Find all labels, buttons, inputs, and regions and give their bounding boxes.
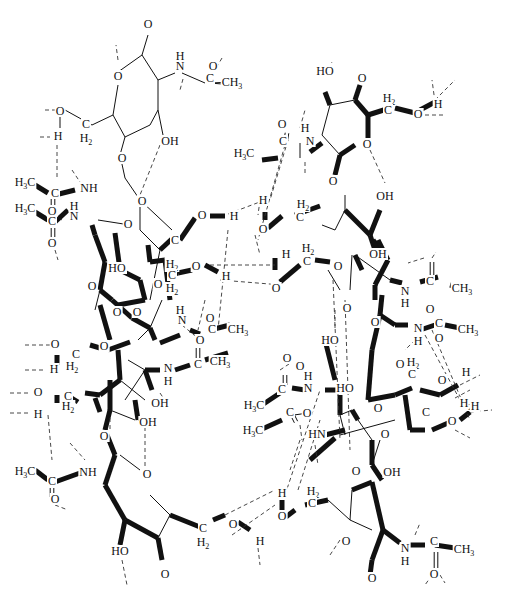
bold-bond [355, 85, 360, 100]
bold-bond [325, 92, 330, 105]
bold-bond [280, 265, 300, 282]
bold-bond [135, 400, 138, 420]
atom-o: O [334, 259, 343, 273]
bold-bond [372, 530, 383, 560]
atom-h: H [50, 362, 59, 376]
single-bond [150, 495, 170, 515]
atom-c: C [296, 210, 304, 224]
single-bond [92, 115, 113, 125]
hydrogen-bond [440, 575, 445, 583]
atom-o: O [161, 567, 170, 581]
single-bond [182, 73, 205, 83]
atom-c: C [408, 367, 416, 381]
bold-bond [370, 210, 380, 235]
atom-c: C [435, 316, 443, 330]
atom-c: C [82, 117, 90, 131]
single-bond [158, 515, 170, 538]
single-bond [322, 135, 340, 155]
atom-ho: HO [321, 333, 339, 347]
atom-n: N [164, 361, 173, 375]
atom-o: O [100, 429, 109, 443]
bold-bond [148, 245, 150, 262]
atom-c: C [48, 474, 56, 488]
atom-nh: NH [80, 181, 98, 195]
atom-c: C [48, 214, 56, 228]
bold-bond [92, 225, 95, 235]
bold-bond [395, 388, 412, 395]
bold-bond [268, 216, 282, 228]
bold-bond [118, 350, 120, 380]
atom-o: O [448, 414, 457, 428]
bold-bond [383, 530, 400, 543]
hydrogen-bond [415, 523, 420, 535]
bold-bond [395, 108, 415, 113]
atom-o: O [371, 315, 380, 329]
single-bond [150, 300, 162, 328]
atom-h: H [278, 486, 287, 500]
hydrogen-bond [140, 145, 160, 195]
hydrogen-bond [72, 170, 80, 182]
atom-c: C [278, 382, 286, 396]
atom-n: N [401, 541, 410, 555]
single-bond [125, 370, 145, 400]
hydrogen-bond [198, 300, 205, 330]
atom-o: O [381, 427, 390, 441]
hydrogen-bond [55, 250, 58, 260]
atom-oh: OH [139, 415, 157, 429]
hydrogen-bond [333, 280, 340, 440]
atom-o: O [88, 279, 97, 293]
atom-h: H [222, 269, 231, 283]
single-bond [158, 73, 175, 80]
atom-c: C [168, 268, 176, 282]
bold-bond [390, 280, 402, 283]
bold-bond [35, 470, 48, 480]
bold-bond [55, 473, 80, 482]
atom-o: O [342, 534, 351, 548]
hydrogen-bond [270, 140, 288, 200]
atom-o: O [34, 385, 43, 399]
atom-o: O [143, 467, 152, 481]
atom-o: O [118, 151, 127, 165]
atom-ho: HO [111, 544, 129, 558]
atom-ho: HO [316, 64, 334, 78]
bold-bond [420, 390, 440, 395]
atom-c: C [384, 103, 392, 117]
atom-labels: OONHCOCH3OHCH2OHOOH3CCONHH3CCONHOHOOOOOC… [14, 17, 481, 585]
atom-o: O [56, 104, 65, 118]
bold-bond [345, 210, 370, 235]
single-bond [125, 125, 150, 137]
atom-c: C [194, 357, 202, 371]
single-bond [120, 455, 140, 470]
atom-h: H [164, 374, 173, 388]
hydrogen-bond [300, 425, 302, 440]
bold-bond [90, 345, 100, 348]
atom-o: O [414, 107, 423, 121]
bold-bond [170, 515, 200, 527]
bold-bond [158, 538, 162, 560]
atom-o: O [435, 331, 444, 345]
bold-bond [355, 100, 368, 115]
bold-bond [180, 218, 195, 240]
atom-o: O [438, 373, 447, 387]
atom-o: O [51, 337, 60, 351]
single-bond [330, 100, 355, 105]
bold-bond [372, 465, 382, 480]
atom-h: H [34, 407, 43, 421]
bold-bond [335, 155, 340, 175]
atom-c: C [430, 534, 438, 548]
atom-h: H [256, 534, 265, 548]
atom-n: N [414, 321, 423, 335]
bold-bond [315, 260, 330, 262]
atom-h: H [176, 303, 185, 317]
bold-bond [100, 262, 105, 290]
atom-o: O [426, 302, 435, 316]
atom-h: H [414, 334, 423, 348]
atom-o: O [154, 277, 163, 291]
atom-o: O [100, 339, 109, 353]
single-bond [158, 110, 163, 135]
single-bond [335, 210, 345, 230]
single-bond [113, 115, 125, 137]
atom-h: H [434, 97, 443, 111]
atom-hn: HN [308, 427, 326, 441]
atom-h: H [54, 129, 63, 143]
